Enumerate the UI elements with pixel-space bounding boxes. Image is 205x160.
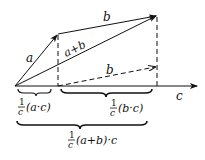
brace-proj-b bbox=[61, 89, 152, 97]
vector-a bbox=[15, 35, 57, 86]
label-proj-a: 1 c (a·c) bbox=[18, 97, 51, 117]
svg-text:1: 1 bbox=[19, 97, 25, 107]
svg-text:(a·c): (a·c) bbox=[26, 101, 51, 114]
svg-text:c: c bbox=[68, 140, 73, 150]
vector-a-label: a bbox=[26, 51, 33, 65]
vector-b-shifted-label: b bbox=[106, 63, 114, 77]
vector-projection-diagram: c a b a+b b 1 c (a·c) 1 c (b·c) 1 c (a+b… bbox=[0, 0, 205, 160]
label-proj-b: 1 c (b·c) bbox=[110, 98, 143, 118]
svg-text:1: 1 bbox=[111, 98, 117, 108]
vector-a-plus-b bbox=[15, 16, 156, 86]
label-proj-sum: 1 c (a+b)·c bbox=[68, 130, 117, 150]
svg-text:c: c bbox=[18, 107, 23, 117]
svg-text:(a+b)·c: (a+b)·c bbox=[76, 134, 117, 147]
vector-b-label: b bbox=[103, 10, 111, 24]
svg-text:1: 1 bbox=[69, 130, 75, 140]
axis-c-label: c bbox=[176, 89, 183, 103]
svg-text:(b·c): (b·c) bbox=[118, 102, 143, 115]
brace-proj-a bbox=[18, 89, 51, 96]
svg-text:c: c bbox=[110, 108, 115, 118]
brace-proj-sum bbox=[17, 121, 147, 129]
